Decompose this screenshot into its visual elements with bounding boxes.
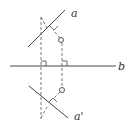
- right-angle-marker-b-right: [62, 61, 67, 66]
- point-upper: [59, 38, 64, 43]
- reflection-diagram: a b a': [0, 0, 132, 127]
- dashed-foot-upper: [53, 30, 60, 38]
- label-b: b: [118, 60, 125, 73]
- dashed-connector-bottom: [41, 107, 47, 118]
- dashed-connector-top: [41, 17, 47, 28]
- right-angle-marker-a: [50, 26, 58, 30]
- right-angle-marker-b-left: [41, 61, 46, 66]
- right-angle-marker-a-prime: [49, 98, 57, 102]
- dashed-foot-lower: [53, 92, 60, 99]
- point-lower: [60, 88, 65, 93]
- label-a: a: [71, 7, 78, 20]
- label-a-prime: a': [74, 110, 84, 123]
